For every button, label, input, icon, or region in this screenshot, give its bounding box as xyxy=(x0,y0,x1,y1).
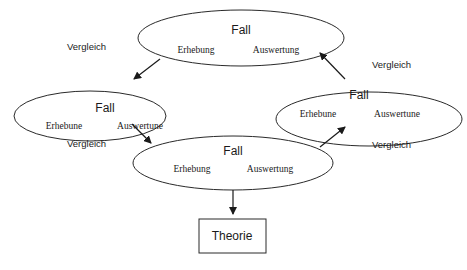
case-evaluation-label: Auswertune xyxy=(117,121,163,131)
case-collection-label: Erhebune xyxy=(300,109,336,119)
case-ellipse xyxy=(276,92,462,146)
theory-box: Theorie xyxy=(199,219,266,253)
theory-label: Theorie xyxy=(212,229,253,243)
case-node-right: Fall Erhebune Auswertune xyxy=(276,88,462,146)
case-comparison-diagram: Fall Erhebung Auswertung Fall Erhebune A… xyxy=(0,0,467,270)
comparison-label-left-bottom: Vergleich xyxy=(67,138,106,149)
case-ellipse xyxy=(14,91,166,141)
case-collection-label: Erhebung xyxy=(174,164,211,174)
case-evaluation-label: Auswertung xyxy=(247,164,294,174)
case-collection-label: Erhebune xyxy=(46,121,82,131)
case-node-bottom: Fall Erhebung Auswertung xyxy=(133,136,333,190)
comparison-label-top-left: Vergleich xyxy=(67,41,106,52)
case-title: Fall xyxy=(223,144,242,158)
comparison-label-top-right: Vergleich xyxy=(372,59,411,70)
arrow-top-to-left xyxy=(134,59,160,79)
case-title: Fall xyxy=(95,101,114,115)
case-node-left: Fall Erhebune Auswertune xyxy=(14,91,166,141)
case-node-top: Fall Erhebung Auswertung xyxy=(138,10,344,66)
case-evaluation-label: Auswertung xyxy=(253,45,300,55)
case-title: Fall xyxy=(349,88,368,102)
case-collection-label: Erhebung xyxy=(178,45,215,55)
case-evaluation-label: Auswertune xyxy=(374,109,420,119)
comparison-label-bottom-right: Vergleich xyxy=(372,139,411,150)
case-ellipse xyxy=(138,10,344,66)
case-title: Fall xyxy=(231,23,250,37)
arrow-right-to-top xyxy=(320,53,345,79)
